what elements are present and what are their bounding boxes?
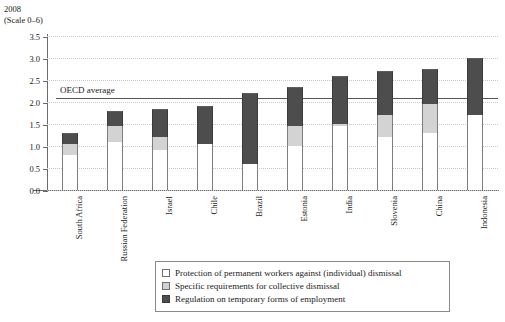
legend-label-temporary: Regulation on temporary forms of employm…: [175, 293, 345, 305]
y-axis-tick-label: 0.0: [29, 186, 40, 196]
y-axis-tick-label: 3.5: [29, 32, 40, 42]
y-axis-tick-label: 1.5: [29, 120, 40, 130]
bar-segment-temp: [422, 69, 438, 104]
bar-segment-coll: [287, 126, 303, 146]
bar-segment-perm: [197, 144, 213, 190]
x-axis-label: South Africa: [74, 196, 84, 239]
x-axis-label: Slovenia: [389, 196, 399, 226]
bar-segment-coll: [377, 115, 393, 137]
legend-label-permanent: Protection of permanent workers against …: [175, 267, 401, 279]
bar-segment-temp: [197, 106, 213, 143]
chart-root: 2008 (Scale 0–6) 0.00.51.01.52.02.53.03.…: [0, 0, 505, 322]
plot-area: 0.00.51.01.52.02.53.03.5 OECD average: [47, 36, 498, 190]
bar-segment-perm: [62, 155, 78, 190]
y-axis-tick-label: 2.5: [29, 76, 40, 86]
bar-segment-temp: [107, 111, 123, 126]
bar-segment-perm: [467, 115, 483, 190]
y-axis-tick-label: 3.0: [29, 54, 40, 64]
x-axis-label: Brazil: [254, 196, 264, 217]
bar-segment-perm: [152, 150, 168, 190]
gridline: 0.0: [47, 190, 498, 191]
bar-segment-temp: [152, 109, 168, 138]
bar-group[interactable]: [107, 111, 123, 190]
bar-segment-perm: [287, 146, 303, 190]
bar-segment-coll: [107, 126, 123, 141]
bar-segment-coll: [422, 104, 438, 133]
x-axis-label: Indonesia: [479, 196, 489, 229]
bar-series-layer: [47, 36, 498, 190]
x-axis-label: Israel: [164, 196, 174, 215]
bar-group[interactable]: [422, 69, 438, 190]
bar-segment-temp: [242, 93, 258, 163]
bar-segment-coll: [62, 144, 78, 155]
bar-group[interactable]: [287, 87, 303, 190]
bar-segment-perm: [377, 137, 393, 190]
legend-label-collective: Specific requirements for collective dis…: [175, 280, 339, 292]
x-axis-label: Russian Federation: [119, 196, 129, 261]
x-axis-label: Estonia: [299, 196, 309, 222]
bar-segment-temp: [62, 133, 78, 144]
bar-group[interactable]: [377, 71, 393, 190]
bar-segment-temp: [467, 58, 483, 115]
caption-year: 2008: [4, 4, 43, 15]
x-axis-label: China: [434, 196, 444, 216]
bar-segment-temp: [332, 76, 348, 124]
caption-scale-note: (Scale 0–6): [4, 15, 43, 26]
chart-legend: Protection of permanent workers against …: [155, 261, 450, 312]
legend-swatch-permanent-icon: [162, 269, 170, 277]
bar-segment-coll: [152, 137, 168, 150]
bar-group[interactable]: [62, 133, 78, 190]
legend-item-temporary: Regulation on temporary forms of employm…: [162, 293, 443, 305]
bar-group[interactable]: [152, 109, 168, 190]
y-axis-tick-label: 2.0: [29, 98, 40, 108]
bar-group[interactable]: [197, 106, 213, 190]
legend-swatch-temporary-icon: [162, 295, 170, 303]
bar-segment-temp: [377, 71, 393, 115]
bar-group[interactable]: [242, 93, 258, 190]
bar-group[interactable]: [467, 58, 483, 190]
legend-item-permanent: Protection of permanent workers against …: [162, 267, 443, 279]
chart-caption: 2008 (Scale 0–6): [4, 4, 43, 26]
bar-group[interactable]: [332, 76, 348, 190]
bar-segment-perm: [332, 126, 348, 190]
bar-segment-perm: [107, 142, 123, 190]
bar-segment-temp: [287, 87, 303, 127]
x-axis-label: India: [344, 196, 354, 213]
y-axis-tick-label: 0.5: [29, 164, 40, 174]
legend-swatch-collective-icon: [162, 282, 170, 290]
bar-segment-perm: [422, 133, 438, 190]
legend-item-collective: Specific requirements for collective dis…: [162, 280, 443, 292]
y-axis-tick-label: 1.0: [29, 142, 40, 152]
x-axis-label: Chile: [209, 196, 219, 214]
y-axis-tick: [43, 191, 48, 192]
bar-segment-perm: [242, 164, 258, 190]
